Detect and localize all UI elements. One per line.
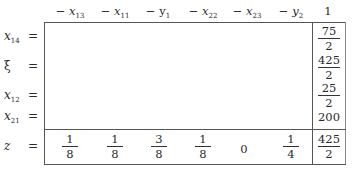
row-label-x14: x14 = (4, 29, 44, 45)
rhs-value-x14: 75 2 (314, 25, 344, 52)
var-subscript: 1 (166, 12, 170, 20)
objective-coef-x23: 0 (229, 142, 259, 156)
var-symbol: x (4, 109, 11, 123)
var-symbol: z (4, 139, 10, 153)
objective-rhs-value: 425 2 (314, 133, 344, 160)
objective-coef-y2: 1 4 (276, 133, 306, 160)
numerator: 1 (66, 133, 73, 145)
objective-coef-x11: 1 8 (100, 133, 130, 160)
var-subscript: 12 (11, 96, 20, 104)
denominator: 8 (155, 148, 162, 160)
minus-sign: − (233, 4, 243, 18)
objective-separator-rule (44, 129, 346, 130)
numerator: 1 (111, 133, 118, 145)
equals-sign: = (28, 109, 38, 123)
equals-sign: = (28, 29, 38, 43)
right-rule (345, 22, 346, 165)
row-label-xi: ξ = (4, 59, 44, 73)
denominator: 8 (111, 148, 118, 160)
rhs-separator-rule (312, 22, 313, 165)
equals-sign: = (28, 139, 38, 153)
minus-sign: − (279, 4, 289, 18)
denominator: 2 (325, 97, 332, 109)
var-symbol: ξ (4, 59, 11, 73)
rhs-value-xi: 425 2 (314, 54, 344, 81)
left-rule (44, 22, 45, 165)
numerator: 25 (322, 82, 337, 94)
numerator: 425 (318, 54, 340, 66)
row-label-x21: x21 = (4, 109, 44, 125)
equals-sign: = (28, 59, 38, 73)
column-header-rhs: 1 (303, 4, 353, 18)
rhs-value-x21: 200 (314, 110, 344, 124)
var-subscript: 21 (11, 117, 20, 125)
denominator: 2 (325, 148, 332, 160)
numerator: 425 (318, 133, 340, 145)
var-subscript: 11 (120, 12, 129, 20)
denominator: 2 (325, 40, 332, 52)
minus-sign: − (56, 4, 66, 18)
minus-sign: − (189, 4, 199, 18)
column-header-x23: − x23 (222, 4, 272, 20)
var-subscript: 14 (11, 37, 20, 45)
denominator: 2 (325, 69, 332, 81)
equals-sign: = (28, 88, 38, 102)
denominator: 8 (199, 148, 206, 160)
column-header-y1: − y1 (133, 4, 183, 20)
row-label-x12: x12 = (4, 88, 44, 104)
numerator: 75 (322, 25, 337, 37)
denominator: 4 (287, 148, 294, 160)
var-subscript: 13 (75, 12, 84, 20)
bottom-rule (44, 164, 346, 165)
rhs-value-x12: 25 2 (314, 82, 344, 109)
objective-coef-x22: 1 8 (188, 133, 218, 160)
column-header-x22: − x22 (178, 4, 228, 20)
var-subscript: 23 (252, 12, 261, 20)
row-label-z: z = (4, 139, 44, 153)
minus-sign: − (101, 4, 111, 18)
var-symbol: x (4, 29, 11, 43)
objective-coef-x13: 1 8 (55, 133, 85, 160)
numerator: 1 (199, 133, 206, 145)
numerator: 3 (155, 133, 162, 145)
objective-coef-y1: 3 8 (144, 133, 174, 160)
numerator: 1 (287, 133, 294, 145)
minus-sign: − (146, 4, 156, 18)
var-symbol: x (4, 88, 11, 102)
var-subscript: 22 (208, 12, 217, 20)
column-header-x13: − x13 (45, 4, 95, 20)
top-rule (44, 22, 346, 23)
denominator: 8 (66, 148, 73, 160)
